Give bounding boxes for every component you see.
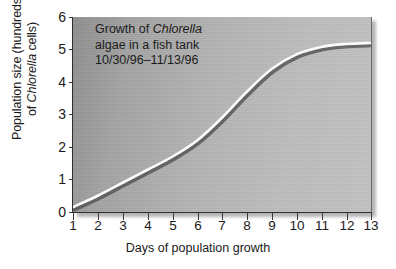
y-tick-label: 6 [44, 10, 66, 24]
x-tick-label: 11 [310, 219, 334, 233]
x-tick-label: 9 [260, 219, 284, 233]
y-tick-label: 4 [44, 75, 66, 89]
x-axis-tick-labels: 1 2 3 4 5 6 7 8 9 10 11 12 13 [0, 219, 396, 235]
plot-area: Growth of Chlorella algae in a fish tank… [73, 17, 372, 213]
y-tick-label: 0 [44, 205, 66, 219]
chart-annotation: Growth of Chlorella algae in a fish tank… [95, 22, 202, 69]
x-tick-label: 13 [359, 219, 383, 233]
y-tick-label: 5 [44, 42, 66, 56]
y-tick-label: 3 [44, 107, 66, 121]
x-tick-label: 12 [335, 219, 359, 233]
x-tick-label: 5 [161, 219, 185, 233]
x-tick-label: 8 [235, 219, 259, 233]
chart-figure: Population size (hundreds of Chlorella c… [0, 0, 396, 269]
x-tick-label: 3 [111, 219, 135, 233]
x-axis-label: Days of population growth [0, 241, 396, 255]
y-tick-label: 1 [44, 172, 66, 186]
x-tick-label: 4 [136, 219, 160, 233]
y-axis-line [72, 17, 73, 213]
annotation-line-1: Growth of Chlorella [95, 22, 202, 38]
x-tick-label: 10 [285, 219, 309, 233]
x-tick-label: 6 [186, 219, 210, 233]
y-axis-label: Population size (hundreds of Chlorella c… [10, 0, 44, 164]
x-tick-label: 1 [61, 219, 85, 233]
annotation-line-3: 10/30/96–11/13/96 [95, 53, 202, 69]
annotation-line-2: algae in a fish tank [95, 38, 202, 54]
x-tick-label: 7 [210, 219, 234, 233]
y-tick-label: 2 [44, 140, 66, 154]
y-axis-label-line-2: of Chlorella cells) [25, 0, 40, 164]
y-axis-label-line-1: Population size (hundreds [10, 0, 25, 164]
x-tick-label: 2 [86, 219, 110, 233]
